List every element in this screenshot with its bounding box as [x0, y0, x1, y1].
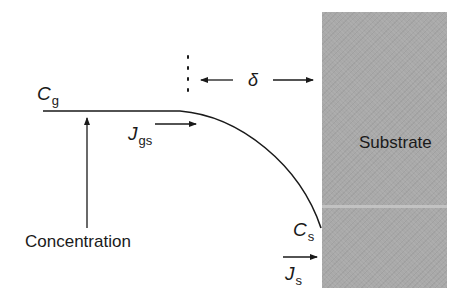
- cg-subscript: g: [52, 93, 59, 108]
- cs-label: Cs: [293, 220, 314, 239]
- substrate-label: Substrate: [359, 134, 432, 151]
- cs-symbol: C: [293, 219, 307, 240]
- jgs-subscript: gs: [139, 133, 153, 148]
- concentration-profile-curve: [43, 111, 321, 228]
- cg-symbol: C: [37, 83, 51, 104]
- delta-label: δ: [248, 71, 258, 89]
- concentration-axis-label: Concentration: [25, 233, 131, 250]
- jgs-label: Jgs: [128, 124, 152, 143]
- js-subscript: s: [296, 273, 303, 288]
- js-label: Js: [285, 264, 302, 283]
- cg-label: Cg: [37, 84, 59, 103]
- js-symbol: J: [285, 263, 295, 284]
- jgs-symbol: J: [128, 123, 138, 144]
- cs-subscript: s: [308, 229, 315, 244]
